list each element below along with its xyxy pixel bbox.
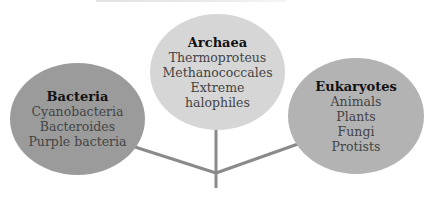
branch-eukaryotes: [216, 144, 298, 173]
node-title: Eukaryotes: [315, 79, 396, 94]
node-item: halophiles: [185, 95, 250, 110]
branch-bacteria: [135, 147, 216, 173]
node-title: Archaea: [188, 35, 247, 50]
node-item: Fungi: [338, 124, 375, 139]
node-item: Extreme: [191, 80, 245, 95]
node-archaea: Archaea Thermoproteus Methanococcales Ex…: [150, 14, 285, 130]
node-item: Animals: [331, 94, 382, 109]
node-item: Cyanobacteria: [32, 104, 124, 119]
node-item: Thermoproteus: [169, 50, 267, 65]
node-item: Plants: [336, 109, 375, 124]
node-bacteria: Bacteria Cyanobacteria Bacteroides Purpl…: [10, 63, 145, 175]
node-item: Purple bacteria: [28, 134, 126, 149]
node-item: Bacteroides: [40, 119, 115, 134]
node-eukaryotes: Eukaryotes Animals Plants Fungi Protists: [288, 58, 424, 174]
node-title: Bacteria: [47, 89, 109, 104]
node-item: Protists: [332, 139, 381, 154]
node-item: Methanococcales: [162, 65, 272, 80]
